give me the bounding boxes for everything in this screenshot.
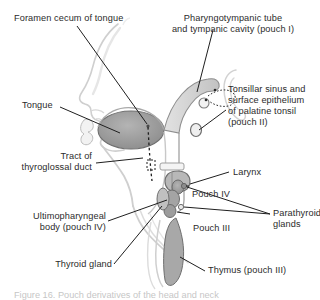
anatomy-figure: Foramen cecum of tongue Pharyngotympanic… <box>0 0 320 300</box>
label-pharyngotympanic-line2: and tympanic cavity (pouch I) <box>152 24 314 35</box>
anatomy-illustration <box>0 0 320 300</box>
label-thyroglossal-line1: Tract of <box>0 151 92 162</box>
leader-thyroid-gland <box>114 206 162 264</box>
pharyngeal-pouches <box>157 180 187 218</box>
tongue-structure <box>98 108 164 149</box>
label-ultimopharyngeal-line1: Ultimopharyngeal <box>0 211 106 222</box>
label-tonsillar-line4: (pouch II) <box>228 117 268 128</box>
thyroid-gland-lobe <box>157 188 169 210</box>
leader-thyroglossal <box>96 158 143 163</box>
label-foramen-cecum: Foramen cecum of tongue <box>14 13 123 24</box>
thymus-structure <box>148 218 184 289</box>
leader-parathyroid-inf <box>184 207 270 214</box>
leader-pouch-iii <box>177 212 190 214</box>
label-pharyngotympanic-line1: Pharyngotympanic tube <box>152 13 314 24</box>
label-ultimopharyngeal-line2: body (pouch IV) <box>0 222 106 233</box>
label-thyroglossal-line2: thyroglossal duct <box>0 162 92 173</box>
label-parathyroid-line2: glands <box>273 219 301 230</box>
label-larynx: Larynx <box>233 167 261 178</box>
leader-larynx <box>190 172 229 184</box>
label-tongue: Tongue <box>22 100 53 111</box>
parathyroid-superior <box>181 183 186 188</box>
tonsillar-sinus <box>191 124 202 137</box>
label-tonsillar-line2: surface epithelium <box>228 95 304 106</box>
leader-tonsillar <box>199 110 226 130</box>
leader-thymus <box>180 257 205 271</box>
label-tonsillar-line3: of palatine tonsil <box>228 106 296 117</box>
label-pouch-iv: Pouch IV <box>192 189 230 200</box>
label-tonsillar-line1: Tonsillar sinus and <box>228 84 305 95</box>
figure-caption: Figure 16. Pouch derivatives of the head… <box>14 290 308 300</box>
label-thymus: Thymus (pouch III) <box>208 265 286 276</box>
label-thyroid-gland: Thyroid gland <box>0 259 112 270</box>
label-parathyroid-line1: Parathyroid <box>273 208 320 219</box>
pouch-one-pocket <box>199 98 209 108</box>
parathyroid-inferior <box>178 204 183 209</box>
label-pouch-iii: Pouch III <box>193 223 230 234</box>
